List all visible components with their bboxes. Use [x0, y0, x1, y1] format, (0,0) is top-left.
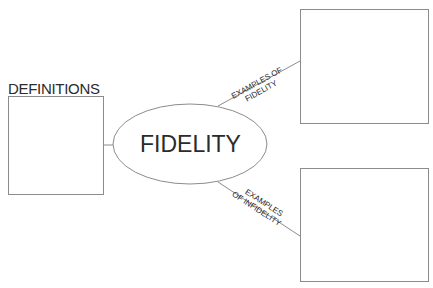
definitions-box	[9, 97, 104, 195]
definitions-title: DEFINITIONS	[8, 80, 100, 97]
examples-fidelity-box	[301, 10, 429, 124]
center-label: FIDELITY	[140, 131, 240, 158]
examples-infidelity-box	[301, 169, 429, 282]
